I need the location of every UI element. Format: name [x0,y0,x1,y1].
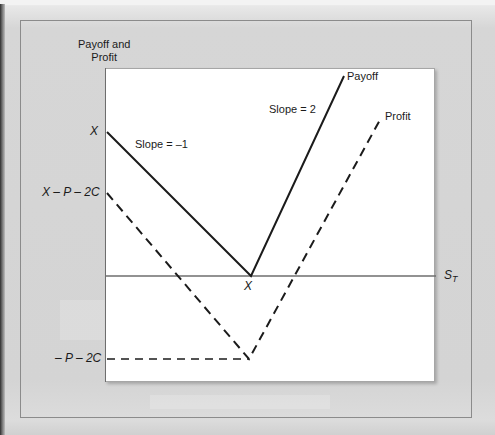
y-axis-title: Payoff and Profit [78,38,130,64]
y-axis-title-line1: Payoff and [78,38,130,51]
x-axis-name-subscript: T [452,274,458,284]
y-label-x-minus-p-minus-2c: X – P – 2C [42,185,100,199]
y-label-x: X [90,124,98,138]
vertical-left-axis [105,68,106,382]
figure-page: Payoff and Profit X X – P – 2C – P – 2C … [0,0,495,435]
x-axis-name: S [444,268,452,282]
series-label-profit: Profit [385,110,411,123]
profit-line [107,118,381,359]
x-axis-name-label: ST [444,268,458,285]
scan-edge-left [0,4,5,435]
y-label-neg-p-minus-2c: – P – 2C [55,351,101,365]
series-label-payoff: Payoff [347,70,378,83]
x-label-strike: X [244,279,252,293]
y-axis-title-line2: Profit [78,51,130,64]
annotation-slope-right: Slope = 2 [269,103,316,116]
scan-edge-top [0,0,495,5]
annotation-slope-left: Slope = –1 [135,138,188,151]
